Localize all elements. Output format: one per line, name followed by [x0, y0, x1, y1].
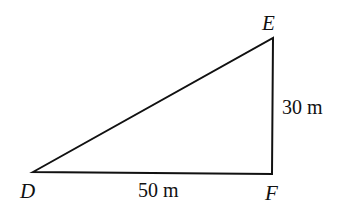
- vertex-label-e: E: [261, 11, 275, 35]
- triangle-def: [33, 38, 273, 174]
- side-label-ef: 30 m: [282, 96, 323, 118]
- vertex-label-f: F: [264, 181, 278, 205]
- triangle-diagram: E D F 50 m 30 m: [0, 0, 356, 213]
- side-label-df: 50 m: [138, 179, 179, 201]
- vertex-label-d: D: [19, 179, 35, 203]
